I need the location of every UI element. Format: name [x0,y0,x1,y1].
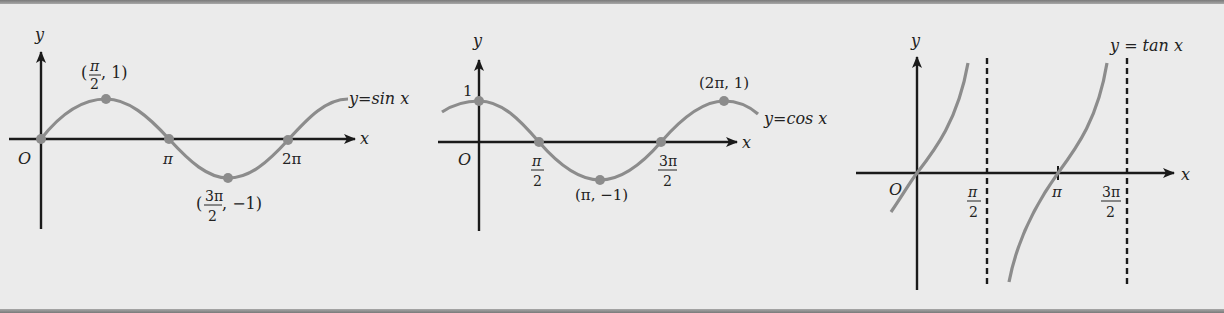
svg-text:2: 2 [90,76,99,92]
cosine-curve [442,101,758,180]
cosine-trough-label: (π, −1) [575,186,628,204]
sine-x-label: x [360,129,369,148]
tan-origin-label: O [889,180,902,199]
sine-curve-label: y=sin x [348,89,409,108]
svg-text:3π: 3π [659,153,677,169]
cosine-peak-label: (2π, 1) [699,74,749,92]
sine-pi-label: π [162,150,174,168]
tan-y-label: y [910,31,921,50]
tan-x-label: x [1181,165,1190,184]
svg-text:3π: 3π [1102,184,1120,200]
cosine-graph: y x O 1 π 2 3π 2 (π, −1) (2π, 1) y=cos x [438,31,827,231]
tan-curve-label: y = tan x [1109,36,1183,55]
cosine-half-pi-label: π 2 [531,153,544,189]
svg-text:2: 2 [969,204,978,220]
svg-text:2: 2 [1106,204,1115,220]
sine-peak-label: ( π 2 , 1) [81,58,128,92]
tan-branch-1 [891,63,968,212]
sine-2pi-label: 2π [282,150,302,168]
tan-half-pi-label: π 2 [967,184,981,220]
cosine-x-label: x [742,133,751,152]
cosine-curve-label: y=cos x [763,109,827,128]
tan-three-half-pi-label: 3π 2 [1101,184,1121,220]
svg-text:2: 2 [663,173,672,189]
sine-graph: y x O ( π 2 , 1) π 2π ( 3π 2 , −1) y=sin… [9,25,409,229]
cosine-three-half-pi-label: 3π 2 [658,153,677,189]
svg-text:(: ( [196,194,202,213]
svg-text:π: π [89,58,100,74]
trig-graphs-figure: y x O ( π 2 , 1) π 2π ( 3π 2 , −1) y=sin… [0,0,1224,313]
svg-text:2: 2 [533,173,542,189]
cosine-one-label: 1 [463,82,473,100]
svg-text:π: π [967,184,978,200]
svg-text:, 1): , 1) [101,63,128,82]
svg-text:π: π [531,153,542,169]
svg-text:, −1): , −1) [222,194,262,213]
sine-origin-label: O [18,149,31,168]
cosine-origin-label: O [458,150,471,169]
svg-text:2: 2 [208,208,217,224]
cosine-points [474,96,729,185]
sine-y-label: y [34,25,45,44]
svg-text:(: ( [81,63,87,82]
tangent-graph: y x O π 2 π 3π 2 y = tan x [856,31,1190,290]
tan-pi-label: π [1051,183,1063,201]
svg-text:3π: 3π [205,188,223,204]
cosine-y-label: y [472,31,483,50]
sine-trough-label: ( 3π 2 , −1) [196,188,262,224]
